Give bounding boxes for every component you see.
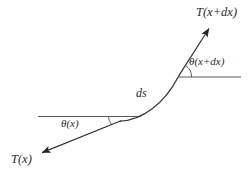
diagram-canvas — [0, 0, 252, 179]
tension-upper-label: T(x+dx) — [196, 6, 237, 19]
string-element-curve — [120, 77, 178, 121]
angle-arc-lower — [109, 117, 112, 125]
angle-lower-label: θ(x) — [61, 118, 79, 129]
arc-length-label: ds — [136, 87, 147, 99]
tension-upper-vector — [178, 29, 209, 77]
tension-lower-label: T(x) — [11, 153, 32, 166]
tension-lower-vector — [42, 121, 121, 153]
force-diagram: T(x+dx) T(x) θ(x+dx) θ(x) ds — [0, 0, 252, 179]
angle-upper-label: θ(x+dx) — [189, 56, 224, 67]
angle-arc-upper — [185, 65, 191, 77]
